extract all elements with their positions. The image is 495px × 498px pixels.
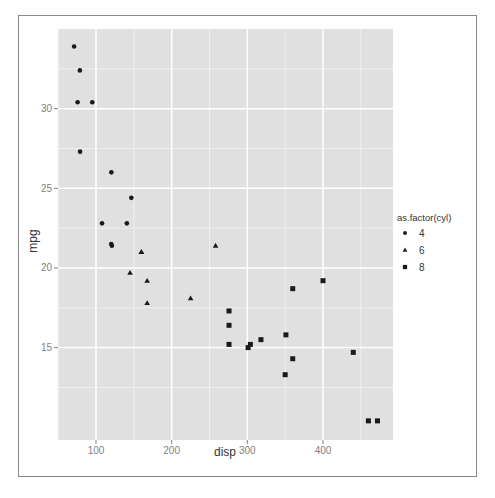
point-square <box>290 286 295 291</box>
point-square <box>321 278 326 283</box>
point-square <box>290 356 295 361</box>
legend: as.factor(cyl) 468 <box>397 212 451 273</box>
point-circle <box>78 68 83 73</box>
point-square <box>258 337 263 342</box>
point-circle <box>110 243 115 248</box>
legend-label: 8 <box>419 262 425 273</box>
point-circle <box>78 149 83 154</box>
x-tick-label: 300 <box>239 445 256 456</box>
y-axis-title: mpg <box>26 229 40 252</box>
point-circle <box>403 231 407 235</box>
point-square <box>403 265 407 269</box>
y-tick-label: 25 <box>41 183 53 194</box>
point-triangle <box>403 248 408 252</box>
point-square <box>227 308 232 313</box>
y-tick-label: 20 <box>41 262 53 273</box>
point-square <box>375 418 380 423</box>
point-square <box>246 345 251 350</box>
point-circle <box>90 100 95 105</box>
point-square <box>227 323 232 328</box>
legend-label: 4 <box>419 228 425 239</box>
legend-label: 6 <box>419 245 425 256</box>
scatter-chart: 100200300400 15202530 disp mpg as.factor… <box>0 0 495 498</box>
point-circle <box>109 170 114 175</box>
point-circle <box>129 196 134 201</box>
y-tick-label: 30 <box>41 103 53 114</box>
x-tick-label: 400 <box>315 445 332 456</box>
x-axis-title: disp <box>214 445 236 459</box>
point-square <box>366 418 371 423</box>
x-axis: 100200300400 <box>88 440 332 456</box>
x-tick-label: 200 <box>163 445 180 456</box>
point-circle <box>75 100 80 105</box>
point-circle <box>100 221 105 226</box>
point-circle <box>125 221 130 226</box>
point-square <box>283 332 288 337</box>
point-circle <box>72 44 77 49</box>
x-tick-label: 100 <box>88 445 105 456</box>
y-tick-label: 15 <box>41 342 53 353</box>
point-square <box>351 350 356 355</box>
point-square <box>283 372 288 377</box>
point-square <box>227 342 232 347</box>
y-axis: 15202530 <box>41 103 58 353</box>
legend-title: as.factor(cyl) <box>397 212 451 223</box>
plot-panel <box>58 29 393 440</box>
